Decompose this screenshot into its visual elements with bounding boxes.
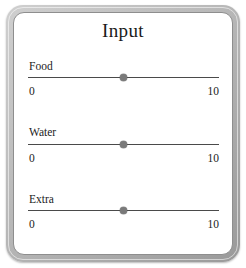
slider-scale: 0 10	[28, 151, 219, 166]
slider-label-food: Food	[28, 59, 219, 73]
slider-max-label: 10	[208, 151, 220, 166]
slider-water[interactable]	[28, 141, 219, 150]
slider-scale: 0 10	[28, 84, 219, 99]
slider-list: Food 0 10 Water 0 10	[14, 59, 232, 232]
slider-row: Extra 0 10	[28, 192, 219, 232]
slider-row: Water 0 10	[28, 125, 219, 165]
slider-thumb[interactable]	[120, 74, 127, 81]
slider-food[interactable]	[28, 74, 219, 83]
slider-label-extra: Extra	[28, 192, 219, 206]
slider-min-label: 0	[29, 217, 35, 232]
slider-max-label: 10	[208, 84, 220, 99]
slider-max-label: 10	[208, 217, 220, 232]
slider-min-label: 0	[29, 84, 35, 99]
slider-scale: 0 10	[28, 217, 219, 232]
slider-min-label: 0	[29, 151, 35, 166]
slider-extra[interactable]	[28, 207, 219, 216]
slider-row: Food 0 10	[28, 59, 219, 99]
slider-thumb[interactable]	[120, 141, 127, 148]
panel-title: Input	[14, 21, 232, 42]
panel-body: Input Food 0 10 Water	[13, 12, 233, 255]
slider-label-water: Water	[28, 125, 219, 139]
slider-thumb[interactable]	[120, 207, 127, 214]
panel-frame: Input Food 0 10 Water	[6, 5, 240, 262]
